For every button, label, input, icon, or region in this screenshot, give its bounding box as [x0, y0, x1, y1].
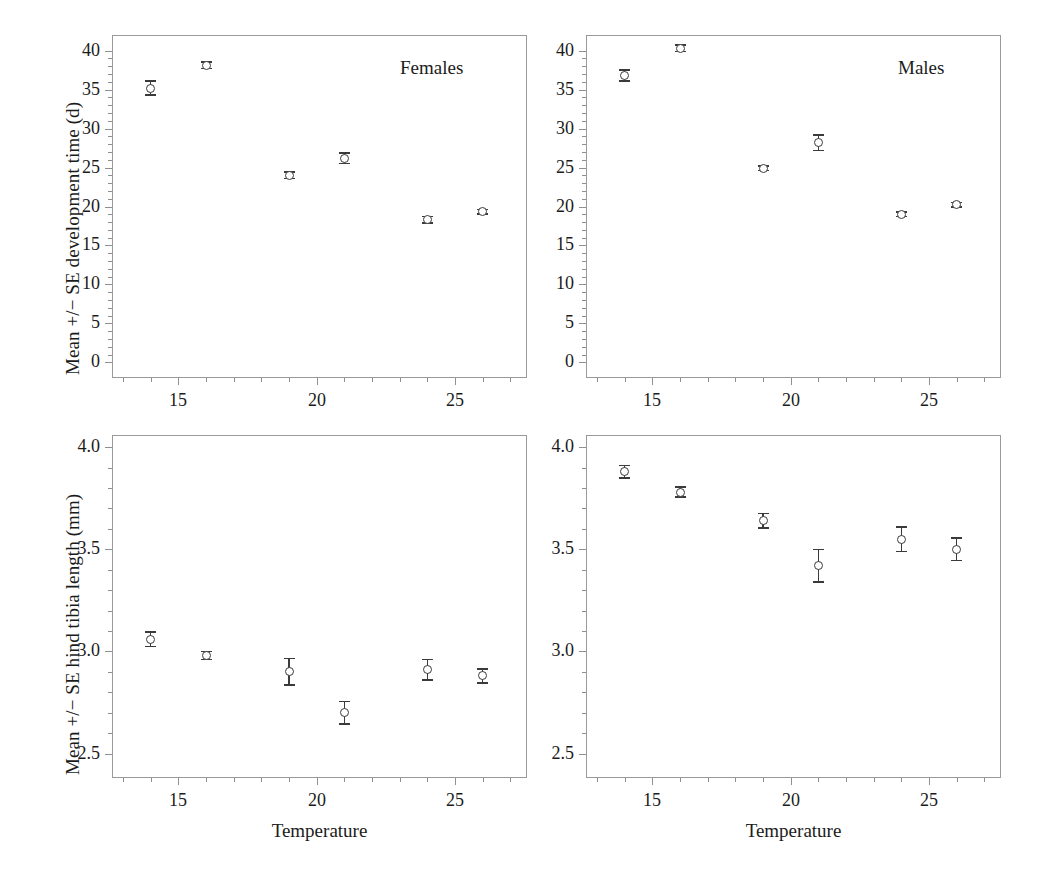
error-cap-lower — [758, 527, 769, 529]
x-tick-minor — [427, 778, 428, 782]
error-cap-upper — [758, 513, 769, 515]
panel-label-males: Males — [898, 57, 944, 79]
x-tick-major — [455, 778, 456, 785]
y-tick-minor — [108, 230, 112, 231]
y-tick-minor — [108, 82, 112, 83]
y-tick-major — [105, 651, 112, 652]
data-point-marker — [814, 561, 823, 570]
data-point-marker — [340, 154, 349, 163]
error-cap-upper — [145, 631, 156, 633]
x-tick-major — [178, 378, 179, 385]
y-tick-major — [579, 284, 586, 285]
y-tick-minor — [108, 238, 112, 239]
x-tick-minor — [427, 378, 428, 382]
y-tick-minor — [108, 113, 112, 114]
y-tick-minor — [108, 355, 112, 356]
x-tick-minor — [625, 378, 626, 382]
x-tick-major — [929, 778, 930, 785]
data-point-marker — [146, 635, 155, 644]
y-tick-major — [579, 754, 586, 755]
y-tick-major — [579, 362, 586, 363]
y-tick-minor — [108, 121, 112, 122]
y-tick-label: 20 — [48, 196, 100, 217]
x-tick-minor — [846, 378, 847, 382]
x-tick-minor — [372, 378, 373, 382]
error-cap-lower — [145, 646, 156, 648]
y-tick-minor — [582, 672, 586, 673]
y-tick-minor — [582, 508, 586, 509]
y-tick-minor — [108, 300, 112, 301]
y-tick-minor — [108, 97, 112, 98]
y-tick-major — [579, 651, 586, 652]
y-tick-major — [105, 362, 112, 363]
y-tick-label: 30 — [522, 118, 574, 139]
y-tick-minor — [108, 529, 112, 530]
x-tick-minor — [289, 378, 290, 382]
x-tick-major — [652, 378, 653, 385]
x-tick-label: 15 — [148, 790, 208, 811]
y-tick-major — [579, 245, 586, 246]
y-tick-minor — [108, 58, 112, 59]
y-tick-label: 30 — [48, 118, 100, 139]
error-cap-lower — [422, 679, 433, 681]
x-tick-major — [317, 378, 318, 385]
data-point-marker — [146, 84, 155, 93]
x-tick-minor — [261, 778, 262, 782]
y-tick-major — [105, 168, 112, 169]
y-tick-minor — [582, 97, 586, 98]
y-tick-minor — [108, 160, 112, 161]
y-tick-major — [105, 754, 112, 755]
y-tick-minor — [108, 692, 112, 693]
x-tick-minor — [206, 778, 207, 782]
x-tick-label: 20 — [287, 390, 347, 411]
y-tick-major — [579, 323, 586, 324]
y-tick-major — [579, 447, 586, 448]
data-point-marker — [285, 667, 294, 676]
y-tick-minor — [582, 105, 586, 106]
y-tick-minor — [582, 191, 586, 192]
x-tick-minor — [735, 378, 736, 382]
y-tick-minor — [582, 316, 586, 317]
x-tick-minor — [957, 778, 958, 782]
x-tick-major — [455, 378, 456, 385]
y-tick-major — [105, 549, 112, 550]
y-tick-minor — [108, 570, 112, 571]
y-tick-major — [579, 207, 586, 208]
y-tick-label: 25 — [48, 157, 100, 178]
y-tick-label: 40 — [48, 40, 100, 61]
y-tick-minor — [582, 733, 586, 734]
plot-frame-bottom-right — [586, 435, 1001, 778]
data-point-marker — [897, 535, 906, 544]
y-tick-major — [105, 284, 112, 285]
y-tick-label: 15 — [522, 234, 574, 255]
y-tick-label: 3.5 — [48, 538, 100, 559]
error-cap-upper — [619, 465, 630, 467]
x-tick-minor — [763, 778, 764, 782]
x-tick-minor — [510, 778, 511, 782]
y-tick-minor — [582, 66, 586, 67]
x-tick-major — [178, 778, 179, 785]
y-tick-minor — [582, 692, 586, 693]
plot-frame-top-left — [112, 35, 527, 378]
x-tick-minor — [123, 378, 124, 382]
data-point-marker — [952, 545, 961, 554]
x-tick-minor — [984, 378, 985, 382]
error-cap-upper — [339, 701, 350, 703]
data-point-marker — [340, 708, 349, 717]
y-tick-minor — [108, 347, 112, 348]
error-cap-lower — [675, 496, 686, 498]
y-tick-label: 35 — [48, 79, 100, 100]
y-tick-minor — [108, 316, 112, 317]
x-tick-major — [791, 378, 792, 385]
x-tick-minor — [483, 378, 484, 382]
x-tick-label: 25 — [899, 390, 959, 411]
y-tick-minor — [582, 277, 586, 278]
x-tick-minor — [680, 778, 681, 782]
y-tick-minor — [582, 222, 586, 223]
x-tick-major — [791, 778, 792, 785]
y-tick-minor — [582, 347, 586, 348]
x-tick-minor — [344, 778, 345, 782]
x-tick-minor — [818, 778, 819, 782]
y-tick-minor — [582, 183, 586, 184]
y-tick-minor — [108, 308, 112, 309]
